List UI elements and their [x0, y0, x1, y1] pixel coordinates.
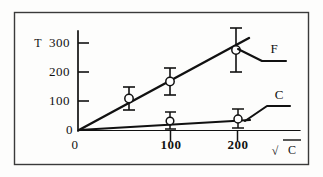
- y-tick-label-0: 0: [66, 122, 73, 137]
- annotation-f: F: [238, 41, 286, 61]
- series-f-fit-line: [79, 38, 249, 130]
- y-tick-labels: 300 200 100 0: [49, 35, 73, 137]
- x-tick-label-100: 100: [161, 137, 182, 152]
- annotation-f-label: F: [270, 41, 277, 56]
- x-tick-label-0: 0: [72, 137, 79, 152]
- scatter-chart: 300 200 100 0 0 100 200 T √ C: [0, 0, 323, 177]
- y-axis-title: T: [34, 36, 42, 50]
- marker-f-2: [166, 77, 174, 85]
- annotation-c-leader: [245, 106, 290, 121]
- y-tick-label-300: 300: [49, 35, 70, 50]
- series-c-fit-line: [79, 120, 250, 130]
- x-tick-labels: 0 100 200: [72, 137, 249, 152]
- data-point-c-2: [232, 109, 244, 128]
- x-axis-title-operand: C: [288, 143, 296, 157]
- series-c-points: [165, 109, 244, 129]
- y-tick-label-200: 200: [49, 64, 70, 79]
- x-axis-title: √ C: [272, 140, 301, 158]
- data-point-c-1: [165, 112, 176, 129]
- annotation-c: C: [245, 87, 290, 121]
- figure-container: 300 200 100 0 0 100 200 T √ C: [0, 0, 323, 177]
- marker-c-2: [234, 115, 242, 123]
- annotation-c-label: C: [275, 87, 284, 102]
- annotation-f-leader: [238, 49, 286, 61]
- y-tick-label-100: 100: [49, 93, 70, 108]
- x-axis-title-radical: √: [272, 144, 279, 158]
- x-tick-label-200: 200: [228, 137, 249, 152]
- marker-c-1: [166, 117, 174, 125]
- data-point-f-2: [164, 68, 176, 95]
- marker-f-1: [125, 94, 133, 102]
